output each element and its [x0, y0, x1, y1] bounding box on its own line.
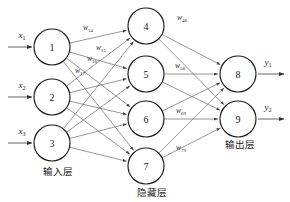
- edge-n3-n5: [67, 86, 130, 132]
- edge-layer: [63, 30, 223, 161]
- output-label-y1: y1: [264, 57, 272, 68]
- node-layer: 123456789: [34, 8, 256, 184]
- neuron-label-6: 6: [144, 114, 149, 125]
- network-canvas: x1x2x3y1y2 123456789 w14w15w16w17w48w58w…: [0, 0, 290, 202]
- neuron-label-5: 5: [144, 69, 149, 80]
- neuron-label-3: 3: [50, 138, 55, 149]
- neuron-label-4: 4: [144, 21, 149, 32]
- neural-network-diagram: x1x2x3y1y2 123456789 w14w15w16w17w48w58w…: [0, 0, 290, 202]
- neuron-label-2: 2: [50, 92, 55, 103]
- neuron-label-8: 8: [236, 69, 241, 80]
- weight-label-w58: w58: [175, 61, 186, 71]
- input-label-x2: x2: [18, 80, 26, 91]
- weight-label-w69: w69: [176, 106, 187, 116]
- layer-label-input: 输入层: [43, 166, 73, 177]
- weight-label-w48: w48: [177, 13, 188, 23]
- edge-n2-n6: [70, 101, 127, 114]
- layer-label-output: 输出层: [225, 139, 255, 150]
- edge-n1-n4: [70, 30, 126, 43]
- edge-n3-n4: [64, 42, 134, 129]
- layer-label-hidden: 隐藏层: [137, 187, 167, 198]
- weight-label-w14: w14: [83, 23, 94, 33]
- weight-label-w79: w79: [176, 143, 187, 153]
- weight-label-w17: w17: [75, 66, 86, 76]
- edge-n4-n8: [162, 35, 220, 65]
- edge-n7-n8: [159, 88, 224, 153]
- edge-n4-n9: [159, 39, 224, 105]
- output-label-y2: y2: [264, 102, 272, 113]
- input-label-x1: x1: [18, 30, 26, 41]
- weight-label-w15: w15: [96, 43, 107, 53]
- input-label-x3: x3: [18, 126, 26, 137]
- neuron-label-9: 9: [236, 114, 241, 125]
- neuron-label-1: 1: [50, 42, 55, 53]
- neuron-label-7: 7: [144, 161, 149, 172]
- edge-n5-n9: [163, 82, 220, 110]
- edge-n6-n8: [163, 83, 220, 111]
- weight-label-w16: w16: [87, 54, 98, 64]
- edge-n7-n9: [162, 128, 220, 157]
- edge-n3-n7: [70, 147, 127, 161]
- edge-n1-n7: [63, 62, 133, 151]
